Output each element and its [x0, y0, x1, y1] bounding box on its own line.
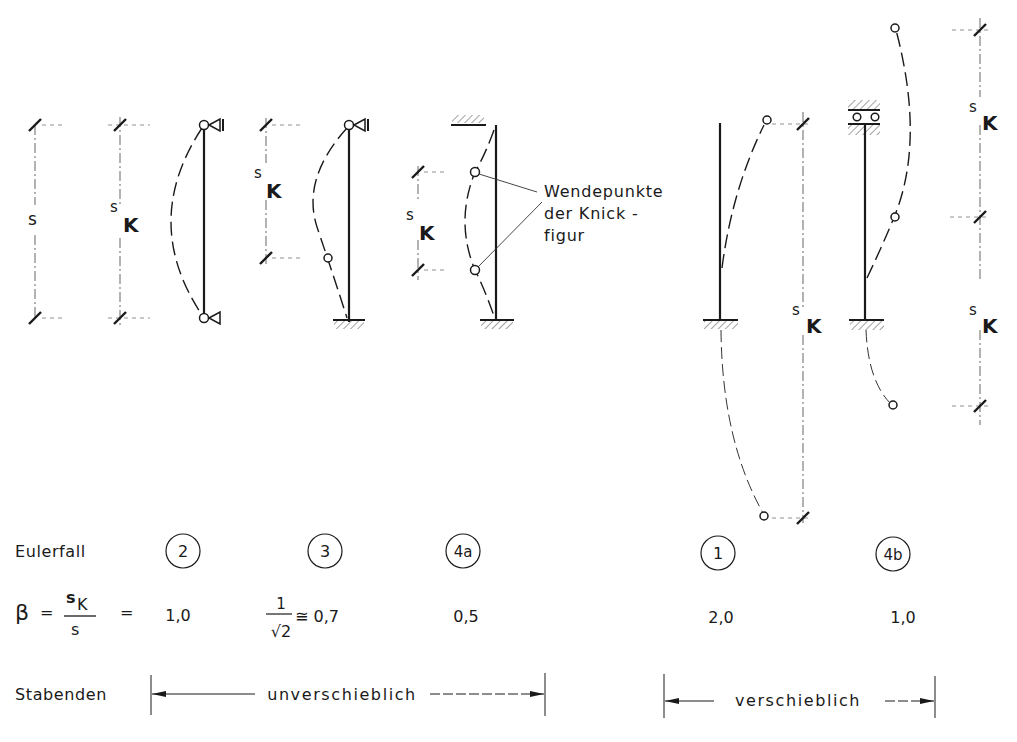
svg-text:Stabenden: Stabenden — [15, 685, 107, 704]
fixed-support-icon — [481, 321, 513, 329]
column-case-1 — [703, 116, 771, 520]
svg-text:2: 2 — [178, 542, 188, 561]
svg-text:s: s — [969, 98, 977, 116]
row-stabenden: Stabenden unverschieblich verschieblich — [15, 673, 935, 718]
sliding-support-icon — [848, 100, 880, 110]
fixed-support-icon — [850, 321, 884, 330]
svg-text:figur: figur — [544, 226, 585, 245]
beta-value-case-4a: 0,5 — [453, 607, 478, 626]
svg-text:s: s — [792, 301, 800, 319]
svg-text:K: K — [77, 595, 88, 614]
svg-text:β: β — [15, 600, 29, 625]
range-verschieblich: verschieblich — [664, 674, 935, 718]
dimension-sk-case4b: s K s K — [950, 18, 999, 425]
annotation-inflection-points: Wendepunkte der Knick - figur — [544, 182, 664, 245]
beta-value-case-2: 1,0 — [165, 606, 190, 625]
row-beta: β = s K s = 1,0 1 √2 ≅ 0,7 0,5 2,0 1,0 — [15, 588, 916, 641]
svg-text:K: K — [982, 314, 999, 338]
svg-text:K: K — [419, 221, 436, 245]
fixed-support-icon — [334, 321, 364, 329]
svg-text:unverschieblich: unverschieblich — [267, 685, 417, 704]
svg-text:K: K — [266, 179, 283, 203]
svg-text:s: s — [254, 164, 262, 182]
column-case-3 — [313, 119, 368, 329]
inflection-point-icon — [324, 254, 332, 262]
inflection-point-icon — [891, 213, 899, 221]
range-unverschieblich: unverschieblich — [151, 673, 545, 716]
svg-text:s: s — [406, 206, 414, 224]
euler-buckling-diagram: s s K s K — [0, 0, 1017, 742]
column-case-4a-body — [465, 125, 542, 329]
svg-text:=: = — [120, 603, 133, 622]
svg-text:Wendepunkte: Wendepunkte — [544, 182, 664, 201]
svg-text:der Knick -: der Knick - — [544, 204, 638, 223]
svg-text:s: s — [110, 198, 118, 216]
column-case-4a — [451, 115, 486, 125]
svg-text:verschieblich: verschieblich — [735, 691, 861, 710]
svg-text:1: 1 — [713, 544, 723, 563]
case-badge-4a: 4a — [446, 534, 480, 568]
dimension-s-label: s — [28, 209, 37, 229]
case-badge-3: 3 — [308, 534, 342, 568]
svg-text:4b: 4b — [883, 546, 902, 564]
case-badge-1: 1 — [701, 536, 735, 570]
fixed-support-icon — [704, 321, 738, 329]
row-eulerfall: Eulerfall 2 3 4a 1 4b — [15, 534, 910, 571]
svg-text:3: 3 — [320, 542, 330, 561]
beta-value-case-3: ≅ 0,7 — [295, 607, 339, 626]
svg-text:s: s — [66, 588, 76, 607]
svg-text:K: K — [123, 213, 140, 237]
hinge-icon — [200, 314, 209, 323]
beta-value-case-1: 2,0 — [708, 608, 733, 627]
svg-text:K: K — [806, 314, 823, 338]
inflection-point-icon — [471, 168, 480, 177]
svg-text:s: s — [969, 301, 977, 319]
dimension-sk-case1: s K — [772, 112, 823, 524]
hinge-icon — [200, 121, 209, 130]
dimension-sk-case4a: s K — [406, 166, 445, 280]
beta-value-case-4b: 1,0 — [890, 608, 915, 627]
fixed-support-icon — [452, 115, 484, 123]
svg-text:1: 1 — [276, 595, 286, 613]
roller-support-icon — [354, 119, 365, 131]
column-case-2 — [171, 119, 223, 324]
dimension-sk-case2: s K — [108, 117, 150, 328]
case-badge-2: 2 — [166, 534, 200, 568]
roller-support-icon — [209, 119, 220, 131]
column-case-4b — [848, 24, 910, 409]
dimension-s: s — [28, 119, 65, 324]
pin-support-icon — [209, 312, 220, 324]
svg-text:K: K — [982, 111, 999, 135]
dimension-sk-case3: s K — [254, 118, 300, 265]
svg-text:Eulerfall: Eulerfall — [15, 542, 86, 561]
svg-text:4a: 4a — [454, 543, 473, 561]
svg-text:s: s — [71, 620, 79, 639]
svg-text:√2: √2 — [271, 622, 291, 641]
case-badge-4b: 4b — [876, 537, 910, 571]
svg-text:=: = — [40, 603, 53, 622]
